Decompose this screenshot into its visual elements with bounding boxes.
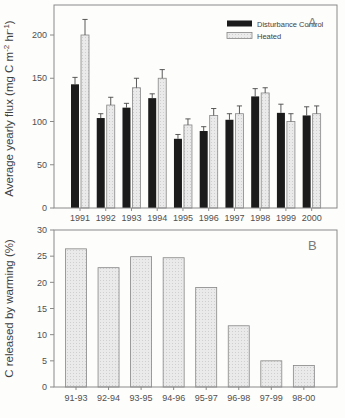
bar-control-1995 [174,139,182,208]
bar-control-2000 [303,115,311,208]
x-tick-label: 97-99 [260,393,283,403]
bar-control-1994 [148,98,156,208]
x-tick-label: 1998 [250,213,270,223]
panel-a-letter: A [308,15,317,30]
y-tick-label: 10 [37,330,47,340]
bar-91-93 [66,249,87,387]
y-tick-label: 15 [37,304,47,314]
bar-heated-1998 [261,93,269,208]
x-tick-label: 1993 [121,213,141,223]
bar-heated-1994 [158,78,166,208]
x-tick-label: 1997 [224,213,244,223]
bar-control-1993 [122,108,130,208]
bar-98-00 [293,366,314,387]
x-tick-label: 1999 [276,213,296,223]
y-tick-label: 0 [42,382,47,392]
x-tick-label: 1996 [199,213,219,223]
bar-97-99 [261,361,282,387]
y-tick-label: 30 [37,225,47,235]
y-tick-label: 50 [37,160,47,170]
bar-control-1997 [225,120,233,208]
bar-96-98 [228,326,249,387]
legend-swatch-heated [227,33,252,39]
y-tick-label: 150 [32,73,47,83]
x-tick-label: 2000 [302,213,322,223]
x-tick-label: 1995 [173,213,193,223]
bar-heated-2000 [313,114,321,208]
bar-heated-1991 [81,35,89,208]
bar-control-1992 [97,118,105,208]
y-tick-label: 100 [32,117,47,127]
y-tick-label: 25 [37,251,47,261]
bar-heated-1992 [107,105,115,208]
bar-control-1996 [200,131,208,208]
bar-heated-1996 [210,115,218,208]
bar-heated-1997 [235,114,243,208]
panel-b-letter: B [308,238,317,253]
x-tick-label: 1991 [70,213,90,223]
legend-swatch-control [227,21,252,27]
x-tick-label: 1994 [147,213,167,223]
bar-heated-1999 [287,122,295,209]
x-tick-label: 95-97 [195,393,218,403]
y-tick-label: 0 [42,203,47,213]
x-tick-label: 96-98 [227,393,250,403]
bar-heated-1993 [132,88,140,208]
y-tick-label: 5 [42,356,47,366]
two-panel-bar-figure: 1991199219931994199519961997199819992000… [0,0,345,418]
x-tick-label: 98-00 [292,393,315,403]
bar-control-1991 [71,84,79,208]
bar-heated-1995 [184,125,192,208]
bar-93-95 [131,257,152,387]
y-tick-label: 20 [37,278,47,288]
figure-svg: 1991199219931994199519961997199819992000… [0,0,345,418]
bar-control-1998 [251,96,259,208]
bar-92-94 [98,268,119,387]
bar-94-96 [163,258,184,387]
bar-95-97 [196,288,217,387]
y-tick-label: 200 [32,30,47,40]
bar-control-1999 [277,113,285,208]
x-tick-label: 91-93 [64,393,87,403]
x-tick-label: 92-94 [97,393,120,403]
x-tick-label: 93-95 [130,393,153,403]
x-tick-label: 94-96 [162,393,185,403]
x-tick-label: 1992 [96,213,116,223]
y-axis-label: C released by warming (%) [3,239,15,378]
legend-label-heated: Heated [257,32,281,41]
